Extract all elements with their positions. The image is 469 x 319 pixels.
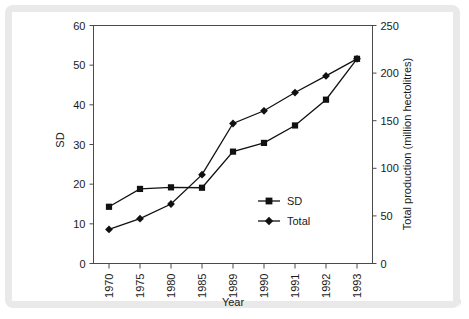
figure-container: 0102030405060050100150200250197019751980…	[0, 0, 469, 319]
right-axis-tick-label: 250	[381, 20, 399, 32]
x-axis-tick-label: 1980	[165, 274, 177, 298]
right-axis-tick-label: 200	[381, 67, 399, 79]
legend-label-sd: SD	[287, 195, 302, 207]
data-point-sd-1980	[168, 184, 174, 190]
data-point-total-1989	[229, 120, 237, 128]
right-axis-tick-label: 0	[381, 258, 387, 270]
data-point-total-1970	[105, 225, 113, 233]
data-point-total-1992	[322, 72, 330, 80]
x-axis-tick-label: 1970	[103, 274, 115, 298]
left-axis-tick-label: 10	[73, 218, 85, 230]
left-axis-tick-label: 30	[73, 139, 85, 151]
data-point-total-1990	[260, 107, 268, 115]
data-point-sd-1975	[137, 186, 143, 192]
left-axis-tick-label: 40	[73, 99, 85, 111]
right-axis-tick-label: 100	[381, 162, 399, 174]
data-point-sd-1992	[323, 97, 329, 103]
x-axis-tick-label: 1993	[351, 274, 363, 298]
x-axis-title: Year	[222, 296, 245, 308]
data-point-sd-1985	[199, 185, 205, 191]
data-point-sd-1970	[106, 204, 112, 210]
data-point-sd-1990	[261, 140, 267, 146]
left-axis-tick-label: 0	[79, 258, 85, 270]
series-line-total	[109, 59, 357, 230]
data-point-sd-1989	[230, 149, 236, 155]
left-axis-tick-label: 50	[73, 59, 85, 71]
x-axis-tick-label: 1985	[196, 274, 208, 298]
data-point-sd-1991	[292, 122, 298, 128]
x-axis-tick-label: 1975	[134, 274, 146, 298]
x-axis-tick-label: 1989	[227, 274, 239, 298]
y2-axis-title: Total production (million hectolitres)	[401, 58, 413, 230]
line-chart: 0102030405060050100150200250197019751980…	[0, 0, 469, 319]
right-axis-tick-label: 150	[381, 115, 399, 127]
data-point-total-1975	[136, 215, 144, 223]
plot-frame	[94, 26, 373, 264]
left-axis-tick-label: 20	[73, 178, 85, 190]
right-axis-tick-label: 50	[381, 210, 393, 222]
left-axis-tick-label: 60	[73, 20, 85, 32]
y-axis-title: SD	[54, 132, 66, 147]
legend-marker-total	[265, 217, 273, 225]
legend-marker-sd	[266, 198, 273, 205]
x-axis-tick-label: 1992	[320, 274, 332, 298]
data-point-total-1991	[291, 89, 299, 97]
x-axis-tick-label: 1990	[258, 274, 270, 298]
x-axis-tick-label: 1991	[289, 274, 301, 298]
series-line-sd	[109, 59, 357, 207]
legend-label-total: Total	[287, 215, 310, 227]
